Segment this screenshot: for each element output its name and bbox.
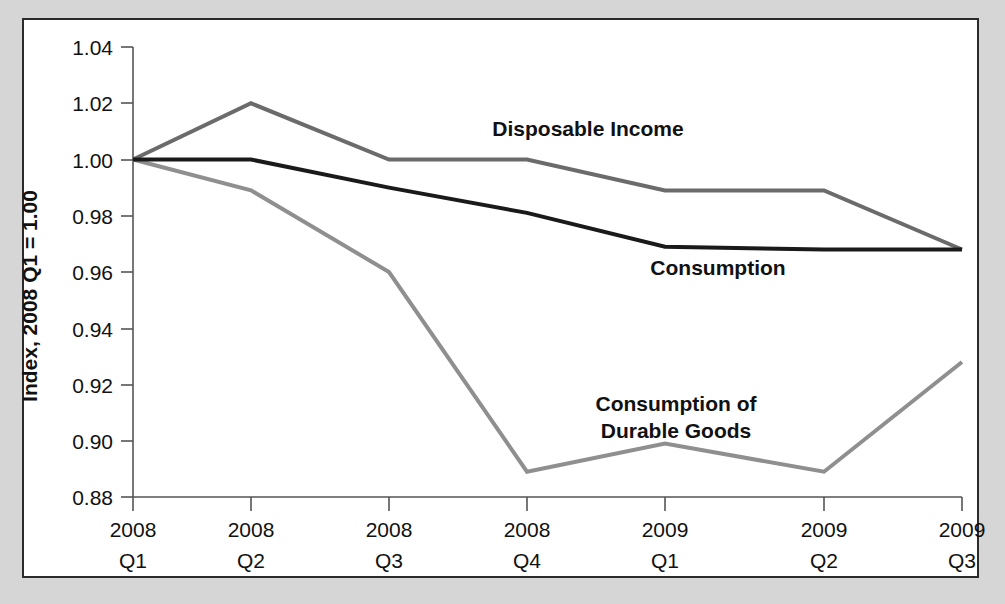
y-tick-label: 1.00	[72, 149, 113, 172]
y-tick-label: 1.04	[72, 36, 113, 59]
x-tick-year: 2008	[110, 518, 157, 541]
x-tick-year: 2008	[366, 518, 413, 541]
x-tick-marks	[133, 497, 962, 511]
y-tick-label: 0.88	[72, 486, 113, 509]
x-tick-quarter: Q3	[948, 549, 976, 572]
series-line-durable-goods	[133, 160, 962, 472]
x-tick-quarter: Q4	[513, 549, 541, 572]
y-tick-label: 0.96	[72, 261, 113, 284]
x-tick-quarter: Q1	[119, 549, 147, 572]
figure-container: Index, 2008 Q1 = 1.00 1.04 1.02 1.00 0.9…	[0, 0, 1005, 604]
x-tick-year: 2009	[642, 518, 689, 541]
series-line-consumption	[133, 160, 962, 250]
y-tick-label: 0.94	[72, 318, 113, 341]
y-axis-title: Index, 2008 Q1 = 1.00	[18, 190, 41, 402]
x-tick-quarter: Q3	[375, 549, 403, 572]
annotation-durable-goods-line1: Consumption of	[596, 392, 758, 415]
y-tick-label: 1.02	[72, 92, 113, 115]
x-tick-year: 2008	[228, 518, 275, 541]
x-tick-labels: 2008 Q1 2008 Q2 2008 Q3 2008 Q4 2009 Q1 …	[110, 518, 986, 572]
x-tick-year: 2009	[801, 518, 848, 541]
x-tick-quarter: Q2	[810, 549, 838, 572]
line-chart: Index, 2008 Q1 = 1.00 1.04 1.02 1.00 0.9…	[0, 0, 1005, 604]
series-annotations: Disposable Income Consumption Consumptio…	[492, 117, 785, 442]
annotation-consumption: Consumption	[650, 256, 785, 279]
y-tick-label: 0.98	[72, 205, 113, 228]
annotation-disposable-income: Disposable Income	[492, 117, 683, 140]
series-group	[133, 103, 962, 471]
x-tick-year: 2009	[939, 518, 986, 541]
y-tick-label: 0.90	[72, 430, 113, 453]
x-tick-year: 2008	[504, 518, 551, 541]
y-tick-label: 0.92	[72, 374, 113, 397]
x-tick-quarter: Q2	[237, 549, 265, 572]
x-tick-quarter: Q1	[651, 549, 679, 572]
y-tick-labels: 1.04 1.02 1.00 0.98 0.96 0.94 0.92 0.90 …	[72, 36, 113, 509]
y-tick-marks	[121, 47, 133, 497]
annotation-durable-goods-line2: Durable Goods	[601, 419, 752, 442]
